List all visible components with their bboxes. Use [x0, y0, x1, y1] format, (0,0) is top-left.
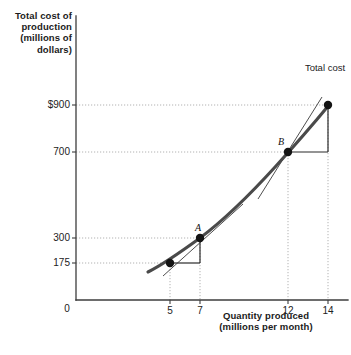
curve-series-label: Total cost [300, 62, 350, 73]
axes [76, 16, 348, 300]
x-tick-label-7: 7 [185, 305, 215, 316]
y-tick-label-300: 300 [8, 232, 70, 243]
marker-point-b [284, 148, 292, 156]
y-axis-title-text: Total cost of production (millions of do… [15, 10, 72, 55]
x-tick-label-5: 5 [155, 305, 185, 316]
marker-endpoint [324, 101, 332, 109]
data-point-markers [166, 101, 332, 267]
x-tick-label-12: 12 [273, 305, 303, 316]
tangent-line-b [258, 97, 322, 199]
total-cost-curve [148, 105, 329, 272]
origin-label: 0 [58, 303, 76, 314]
cost-curve-figure: Total cost of production (millions of do… [0, 0, 351, 355]
marker-point-a [196, 234, 204, 242]
point-label-b: B [278, 136, 284, 147]
gridlines [76, 105, 328, 300]
x-tick-label-14: 14 [313, 305, 343, 316]
y-axis-title: Total cost of production (millions of do… [0, 10, 72, 55]
y-tick-label-175: 175 [8, 257, 70, 268]
point-label-a: A [195, 222, 201, 233]
y-tick-label-700: 700 [8, 146, 70, 157]
y-tick-label-900: $900 [8, 99, 70, 110]
marker-start-point [166, 259, 174, 267]
